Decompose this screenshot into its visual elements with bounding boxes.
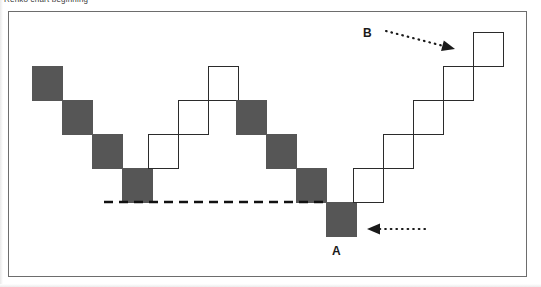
arrow-head-a [367,224,380,235]
annotation-arrows [367,31,455,235]
arrow-head-b [441,40,455,51]
arrow-shaft-b [386,31,442,46]
annotation-label-b: B [363,27,372,39]
figure-stage: Renko chart beginning A B [0,0,541,287]
annotation-label-a: A [332,245,341,257]
annotation-layer [0,0,541,287]
